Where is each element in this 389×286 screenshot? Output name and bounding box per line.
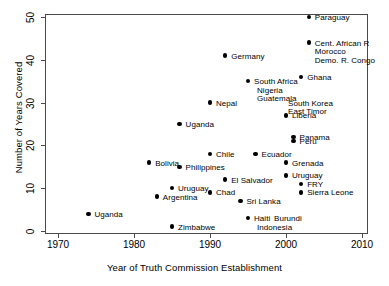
data-point-label: Ghana [307,74,331,82]
data-point-label: South Africa [254,78,298,86]
data-point-label: Zimbabwe [178,224,215,232]
y-tick-label: 20 [25,138,36,154]
y-tick-mark [41,103,45,104]
y-tick-label: 40 [25,52,36,68]
data-point-marker [284,173,289,178]
data-point-label: Chad [216,189,235,197]
x-tick-mark [58,234,59,238]
data-point-label: Uruguay [178,185,209,193]
x-tick-mark [134,234,135,238]
data-point-label: Grenada [292,160,323,168]
x-tick-label: 2000 [266,239,306,250]
y-tick-label: 50 [25,10,36,26]
x-tick-label: 1970 [38,239,78,250]
data-point-label: Nepal [216,100,237,108]
y-tick-mark [41,60,45,61]
data-point-label: Burundi [274,215,302,223]
data-point-label: Demo. R. Congo [315,57,375,65]
y-tick-label: 30 [25,95,36,111]
data-point-marker [177,122,182,127]
scatter-chart-figure: 1970198019902000201001020304050 UgandaBo… [0,0,389,286]
y-tick-label: 10 [25,181,36,197]
data-point-label: Liberia [292,112,316,120]
x-tick-mark [286,234,287,238]
data-point-label: Peru [300,138,317,146]
data-point-marker [208,190,213,195]
data-point-marker [284,113,289,118]
data-point-label: Paraguay [315,14,350,22]
y-tick-mark [41,231,45,232]
data-point-marker [177,165,182,170]
data-point-label: Sri Lanka [246,198,280,206]
data-point-label: Sierra Leone [307,189,353,197]
data-point-marker [155,194,160,199]
data-point-label: Indonesia [257,224,292,232]
data-point-label: Philippines [186,164,225,172]
data-point-label: Uganda [186,121,214,129]
data-point-label: Bolivia [155,160,179,168]
data-point-label: Uganda [94,211,122,219]
x-tick-label: 2010 [342,239,382,250]
data-point-label: El Salvador [231,177,272,185]
data-point-label: Argentina [163,194,198,202]
data-point-marker [86,212,91,217]
data-point-label: Ecuador [262,151,292,159]
data-point-marker [253,152,258,157]
data-point-marker [307,40,312,45]
data-point-marker [284,160,289,165]
x-tick-mark [210,234,211,238]
y-axis-title: Number of Years Covered [13,38,24,198]
x-tick-mark [362,234,363,238]
data-point-label: Germany [231,53,264,61]
y-tick-mark [41,17,45,18]
x-axis-title: Year of Truth Commission Establishment [0,262,389,273]
data-point-marker [208,100,213,105]
data-point-label: Haiti [254,215,270,223]
y-tick-label: 0 [25,224,36,240]
data-point-marker [238,199,243,204]
data-point-label: Chile [216,151,234,159]
y-tick-mark [41,188,45,189]
y-tick-mark [41,145,45,146]
x-tick-label: 1980 [114,239,154,250]
x-tick-label: 1990 [190,239,230,250]
